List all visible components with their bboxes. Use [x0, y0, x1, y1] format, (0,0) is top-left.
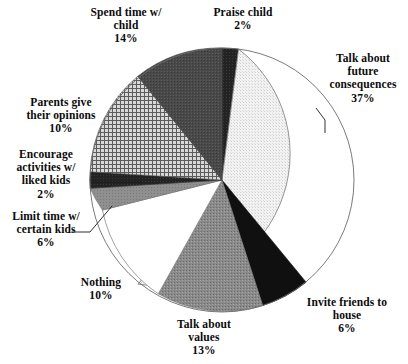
pie-label-encourage-activities: Encourage activities w/ liked kids 2% — [0, 148, 92, 201]
pie-label-nothing: Nothing 10% — [62, 276, 140, 302]
pie-slices — [90, 48, 306, 311]
pie-label-talk-values: Talk about values 13% — [150, 318, 258, 358]
pie-label-talk-future: Talk about future consequences 37% — [318, 52, 408, 105]
pie-label-parents-opinions: Parents give their opinions 10% — [2, 96, 120, 136]
leader-line-talk-future — [316, 108, 325, 133]
pie-label-limit-time: Limit time w/ certain kids 6% — [0, 210, 92, 250]
pie-label-invite-friends: Invite friends to house 6% — [288, 296, 406, 336]
pie-label-spend-time: Spend time w/ child 14% — [64, 6, 188, 46]
pie-label-praise-child: Praise child 2% — [188, 6, 298, 32]
pie-chart: Spend time w/ child 14% Praise child 2% … — [0, 0, 408, 364]
